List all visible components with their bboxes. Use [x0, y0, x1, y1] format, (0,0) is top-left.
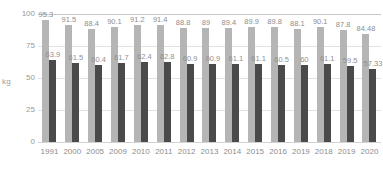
bar-light-series-2016-10[interactable]: 89.8 — [271, 27, 278, 142]
bar-group-2013-7: 8960.9 — [198, 14, 221, 142]
x-axis-tick-2019-13: 2019 — [335, 147, 358, 161]
bar-value-label-dark-series-2009-3: 61.7 — [114, 54, 129, 62]
bar-light-series-2019-13[interactable]: 87.8 — [340, 30, 347, 142]
bar-value-label-light-series-2019-11: 88.1 — [290, 20, 305, 28]
bar-group-2005-2: 88.460.4 — [84, 14, 107, 142]
bar-light-series-2020-14[interactable]: 84.48 — [362, 34, 369, 142]
gridline-0 — [38, 142, 381, 143]
x-axis-tick-2014-8: 2014 — [221, 147, 244, 161]
x-axis-tick-2019-11: 2019 — [289, 147, 312, 161]
bar-dark-series-1991-0[interactable]: 63.9 — [49, 60, 56, 142]
bar-value-label-dark-series-1991-0: 63.9 — [46, 51, 61, 59]
bar-light-series-2012-6[interactable]: 88.8 — [180, 28, 187, 142]
bar-dark-series-2010-4[interactable]: 62.4 — [141, 62, 148, 142]
x-axis-tick-2018-12: 2018 — [312, 147, 335, 161]
bar-light-series-2018-12[interactable]: 90.1 — [317, 27, 324, 142]
x-axis-tick-2011-5: 2011 — [152, 147, 175, 161]
bar-group-2018-12: 90.161.1 — [312, 14, 335, 142]
x-axis-tick-2010-4: 2010 — [129, 147, 152, 161]
bar-value-label-dark-series-2020-14: 57.33 — [364, 60, 383, 68]
bar-light-series-2015-9[interactable]: 89.9 — [248, 27, 255, 142]
bar-value-label-light-series-2013-7: 89 — [202, 19, 210, 27]
bar-group-2020-14: 84.4857.33 — [358, 14, 381, 142]
bar-value-label-dark-series-2014-8: 61.1 — [228, 55, 243, 63]
bar-value-label-dark-series-2016-10: 60.5 — [274, 56, 289, 64]
bar-value-label-dark-series-2019-13: 59.5 — [343, 57, 358, 65]
bar-group-2000-1: 91.561.5 — [61, 14, 84, 142]
y-axis-tick-100: 100 — [22, 10, 35, 18]
bar-dark-series-2012-6[interactable]: 60.9 — [187, 64, 194, 142]
bar-dark-series-2019-13[interactable]: 59.5 — [347, 66, 354, 142]
x-axis-tick-2013-7: 2013 — [198, 147, 221, 161]
x-axis-tick-2012-6: 2012 — [175, 147, 198, 161]
bar-light-series-2005-2[interactable]: 88.4 — [88, 29, 95, 142]
bar-dark-series-2018-12[interactable]: 61.1 — [324, 64, 331, 142]
bar-light-series-1991-0[interactable]: 95.3 — [42, 20, 49, 142]
bar-group-1991-0: 95.363.9 — [38, 14, 61, 142]
x-axis-tick-2000-1: 2000 — [61, 147, 84, 161]
bar-value-label-light-series-2016-10: 89.8 — [267, 18, 282, 26]
x-axis-tick-2009-3: 2009 — [107, 147, 130, 161]
bar-light-series-2014-8[interactable]: 89.4 — [225, 28, 232, 142]
bar-groups: 95.363.991.561.588.460.490.161.791.262.4… — [38, 14, 381, 142]
x-axis-tick-2005-2: 2005 — [84, 147, 107, 161]
bar-group-2010-4: 91.262.4 — [129, 14, 152, 142]
x-axis-tick-1991-0: 1991 — [38, 147, 61, 161]
bar-value-label-light-series-2012-6: 88.8 — [176, 19, 191, 27]
bar-value-label-light-series-2018-12: 90.1 — [313, 18, 328, 26]
bar-value-label-light-series-2015-9: 89.9 — [244, 18, 259, 26]
bar-dark-series-2009-3[interactable]: 61.7 — [118, 63, 125, 142]
bar-group-2009-3: 90.161.7 — [107, 14, 130, 142]
bar-value-label-dark-series-2005-2: 60.4 — [91, 56, 106, 64]
bar-value-label-light-series-2014-8: 89.4 — [221, 19, 236, 27]
x-axis: 1991200020052009201020112012201320142015… — [38, 147, 381, 161]
bar-dark-series-2016-10[interactable]: 60.5 — [278, 65, 285, 142]
y-axis-tick-25: 25 — [26, 106, 35, 114]
bar-group-2012-6: 88.860.9 — [175, 14, 198, 142]
x-axis-tick-2015-9: 2015 — [244, 147, 267, 161]
bar-light-series-2010-4[interactable]: 91.2 — [134, 25, 141, 142]
bar-dark-series-2000-1[interactable]: 61.5 — [72, 63, 79, 142]
bar-light-series-2011-5[interactable]: 91.4 — [157, 25, 164, 142]
bar-group-2019-11: 88.160 — [289, 14, 312, 142]
x-axis-tick-2016-10: 2016 — [267, 147, 290, 161]
bar-value-label-light-series-2009-3: 90.1 — [107, 18, 122, 26]
bar-dark-series-2014-8[interactable]: 61.1 — [232, 64, 239, 142]
bar-value-label-dark-series-2000-1: 61.5 — [68, 54, 83, 62]
bar-value-label-light-series-2011-5: 91.4 — [153, 16, 168, 24]
y-axis-tick-75: 75 — [26, 42, 35, 50]
bar-value-label-light-series-1991-0: 95.3 — [39, 11, 54, 19]
bar-group-2016-10: 89.860.5 — [267, 14, 290, 142]
bar-value-label-light-series-2010-4: 91.2 — [130, 16, 145, 24]
bar-value-label-light-series-2005-2: 88.4 — [84, 20, 99, 28]
bar-value-label-dark-series-2011-5: 62.8 — [160, 53, 175, 61]
bar-value-label-dark-series-2013-7: 60.9 — [206, 55, 221, 63]
bar-chart: kg 1007550250 95.363.991.561.588.460.490… — [0, 0, 383, 171]
bar-dark-series-2011-5[interactable]: 62.8 — [164, 62, 171, 142]
y-axis-tick-0: 0 — [31, 138, 35, 146]
bar-value-label-light-series-2020-14: 84.48 — [357, 25, 376, 33]
y-axis-tick-50: 50 — [26, 74, 35, 82]
bar-light-series-2009-3[interactable]: 90.1 — [111, 27, 118, 142]
y-axis: 1007550250 — [0, 0, 38, 171]
bar-value-label-dark-series-2019-11: 60 — [300, 56, 308, 64]
bar-dark-series-2005-2[interactable]: 60.4 — [95, 65, 102, 142]
bar-value-label-dark-series-2015-9: 61.1 — [251, 55, 266, 63]
bar-group-2015-9: 89.961.1 — [244, 14, 267, 142]
bar-value-label-light-series-2019-13: 87.8 — [336, 21, 351, 29]
plot-area: 95.363.991.561.588.460.490.161.791.262.4… — [38, 14, 381, 142]
bar-dark-series-2020-14[interactable]: 57.33 — [369, 69, 376, 142]
bar-value-label-dark-series-2018-12: 61.1 — [320, 55, 335, 63]
bar-dark-series-2015-9[interactable]: 61.1 — [255, 64, 262, 142]
bar-dark-series-2019-11[interactable]: 60 — [301, 65, 308, 142]
bar-light-series-2000-1[interactable]: 91.5 — [65, 25, 72, 142]
bar-light-series-2013-7[interactable]: 89 — [202, 28, 209, 142]
bar-group-2011-5: 91.462.8 — [152, 14, 175, 142]
bar-value-label-light-series-2000-1: 91.5 — [61, 16, 76, 24]
bar-group-2019-13: 87.859.5 — [335, 14, 358, 142]
bar-value-label-dark-series-2010-4: 62.4 — [137, 53, 152, 61]
x-axis-tick-2020-14: 2020 — [358, 147, 381, 161]
bar-light-series-2019-11[interactable]: 88.1 — [294, 29, 301, 142]
bar-group-2014-8: 89.461.1 — [221, 14, 244, 142]
bar-dark-series-2013-7[interactable]: 60.9 — [209, 64, 216, 142]
